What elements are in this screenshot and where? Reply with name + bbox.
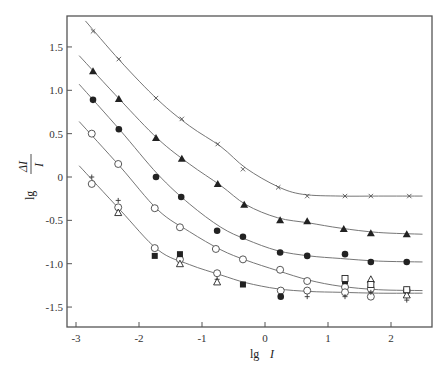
x-tick-label: 2 — [388, 332, 394, 344]
filled-circle-marker — [116, 126, 123, 133]
y-axis-label-denominator: I — [32, 162, 46, 168]
filled-circle-marker — [214, 227, 221, 234]
filled-circle-marker — [368, 259, 375, 266]
filled-triangle-marker — [152, 134, 160, 141]
open-circle-marker — [151, 245, 158, 252]
x-axis-label-text: lg — [250, 347, 259, 361]
fit-curves — [79, 21, 422, 293]
x-axis-label: lg I — [250, 347, 275, 361]
filled-square-marker — [177, 251, 183, 257]
filled-circle-marker — [403, 259, 410, 266]
open-circle-marker — [239, 256, 246, 263]
x-tick-label: -2 — [134, 332, 143, 344]
y-tick-label: 0.5 — [49, 128, 63, 140]
y-tick-label: 0 — [58, 171, 64, 183]
filled-circle-marker — [277, 249, 284, 256]
open-circle-marker — [88, 180, 95, 187]
x-axis: -3-2-1012 — [71, 322, 393, 344]
y-tick-label: 1.0 — [49, 84, 63, 96]
fit-open-circle-lower — [79, 166, 422, 294]
x-marker — [216, 142, 220, 146]
x-tick-label: -3 — [71, 332, 81, 344]
open-square-marker — [404, 287, 410, 293]
open-circle-marker — [88, 130, 95, 137]
x-marker — [117, 57, 121, 61]
open-circle-marker — [115, 160, 122, 167]
filled-circle-marker — [90, 97, 97, 104]
fit-filled-triangle — [79, 56, 422, 235]
open-square-marker — [342, 275, 348, 281]
filled-circle-marker — [240, 234, 247, 241]
y-axis-label: lg ΔI I — [16, 154, 46, 200]
open-circle-marker — [212, 245, 219, 252]
filled-circle-marker — [304, 253, 311, 260]
filled-circle-marker — [277, 293, 284, 300]
plus-marker — [116, 198, 121, 203]
y-axis-label-numerator: ΔI — [16, 160, 30, 173]
filled-triangle-marker — [303, 217, 311, 224]
open-circle-marker — [304, 278, 311, 285]
open-circle-marker — [176, 224, 183, 231]
y-axis-label-text: lg — [23, 191, 37, 200]
filled-triangle-marker — [367, 229, 375, 236]
x-tick-label: 0 — [262, 332, 268, 344]
plus-marker — [305, 294, 310, 299]
x-tick-label: -1 — [197, 332, 206, 344]
y-tick-label: -1.0 — [46, 258, 64, 270]
plus-marker — [89, 175, 94, 180]
plus-marker — [404, 298, 409, 303]
open-circle-marker — [277, 287, 284, 294]
x-marker — [154, 96, 158, 100]
x-tick-label: 1 — [325, 332, 331, 344]
x-axis-label-var: I — [269, 347, 275, 361]
filled-square-marker — [240, 282, 246, 288]
y-axis: 1.51.00.50-0.5-1.0-1.5 — [46, 41, 72, 313]
filled-circle-marker — [342, 251, 349, 258]
y-tick-label: -1.5 — [46, 301, 64, 313]
open-circle-marker — [277, 266, 284, 273]
open-circle-marker — [214, 270, 221, 277]
filled-triangle-marker — [214, 180, 222, 187]
open-square-marker — [368, 282, 374, 288]
x-marker — [241, 167, 245, 171]
y-tick-label: 1.5 — [49, 41, 63, 53]
filled-circle-marker — [178, 194, 185, 201]
y-tick-label: -0.5 — [46, 214, 64, 226]
chart: -3-2-1012 1.51.00.50-0.5-1.0-1.5 lg I lg… — [0, 0, 444, 370]
filled-square-marker — [152, 253, 158, 259]
open-circle-marker — [304, 287, 311, 294]
filled-circle-marker — [153, 174, 160, 181]
fit-cross — [85, 21, 422, 196]
open-circle-marker — [151, 205, 158, 212]
